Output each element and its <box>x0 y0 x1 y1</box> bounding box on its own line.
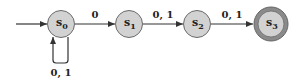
state-s0: s0 <box>48 11 75 38</box>
diagram-svg: 0, 1 0 0, 1 0, 1 s0 s1 s2 s3 <box>0 0 305 83</box>
state-s2: s2 <box>184 11 211 38</box>
edge-label-s2-s3: 0, 1 <box>222 9 243 21</box>
self-loop-s0 <box>53 37 68 63</box>
state-s1: s1 <box>116 11 143 38</box>
edge-label-s0-s0: 0, 1 <box>51 67 72 79</box>
state-s3-accepting: s3 <box>254 7 288 41</box>
edge-label-s1-s2: 0, 1 <box>153 9 174 21</box>
automaton-diagram: 0, 1 0 0, 1 0, 1 s0 s1 s2 s3 <box>0 0 305 83</box>
edge-label-s0-s1: 0 <box>92 9 99 20</box>
